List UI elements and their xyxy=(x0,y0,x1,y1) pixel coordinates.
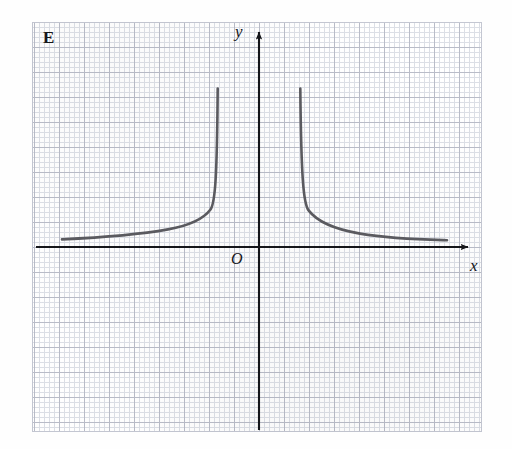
curve-right-branch xyxy=(300,89,447,241)
x-axis-label: x xyxy=(470,256,478,276)
part-label-e: E xyxy=(43,28,55,48)
graph-vector-layer xyxy=(0,0,512,449)
y-axis-label: y xyxy=(235,22,243,42)
figure-canvas: E y x O xyxy=(0,0,512,449)
curve-left-branch xyxy=(62,89,218,240)
origin-label: O xyxy=(231,250,243,268)
